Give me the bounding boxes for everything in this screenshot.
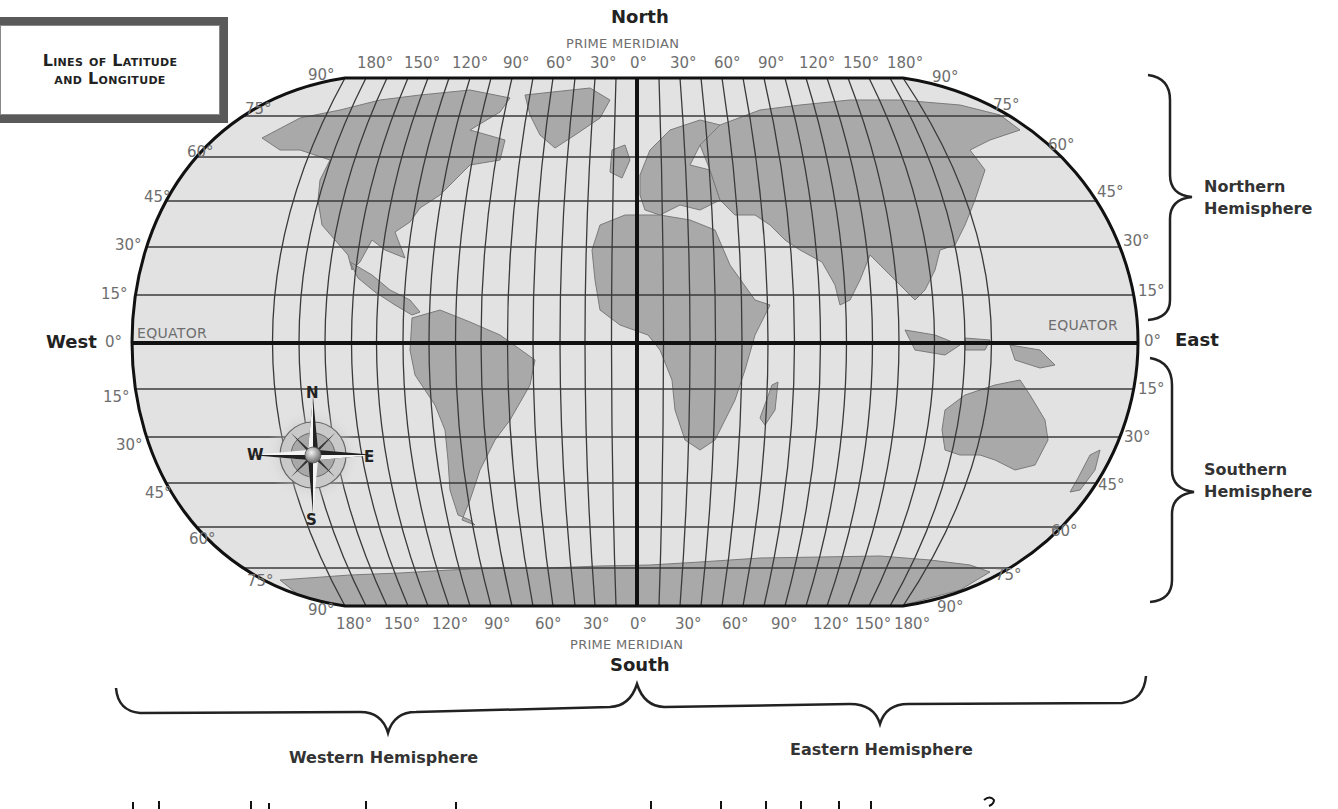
lat-left-label-equator: 0° <box>105 333 122 351</box>
lon-bottom-label: 30° <box>675 615 702 633</box>
lat-right-label: 15° <box>1138 282 1165 300</box>
lon-top-label: 30° <box>590 54 617 72</box>
northern-hemisphere-label: Northern Hemisphere <box>1204 176 1312 219</box>
south-label: South <box>610 654 670 675</box>
lon-bottom-label: 180° <box>336 615 372 633</box>
lat-left-label: 75° <box>247 572 274 590</box>
lon-bottom-label: 150° <box>855 615 891 633</box>
western-hemisphere-label: Western Hemisphere <box>289 747 478 769</box>
lon-top-label: 60° <box>714 54 741 72</box>
lon-top-label: 150° <box>404 54 440 72</box>
compass-w-label: W <box>247 446 264 464</box>
lon-bottom-label: 180° <box>894 615 930 633</box>
southern-hemisphere-label: Southern Hemisphere <box>1204 459 1312 502</box>
lon-bottom-label: 60° <box>722 615 749 633</box>
north-label: North <box>611 6 669 27</box>
lat-left-label: 15° <box>103 388 130 406</box>
prime-meridian-top-label: PRIME MERIDIAN <box>566 36 679 51</box>
lon-bottom-label: 60° <box>535 615 562 633</box>
lon-bottom-label: 150° <box>384 615 420 633</box>
lat-left-label: 45° <box>144 188 171 206</box>
lat-left-label: 45° <box>145 484 172 502</box>
lat-left-label: 90° <box>308 66 335 84</box>
lat-left-label: 30° <box>116 436 143 454</box>
lat-left-label: 75° <box>245 100 272 118</box>
lat-right-label: 60° <box>1048 136 1075 154</box>
lon-top-label: 180° <box>887 54 923 72</box>
eastern-hemisphere-label: Eastern Hemisphere <box>790 739 973 761</box>
lat-right-label: 90° <box>937 598 964 616</box>
lon-top-label: 120° <box>799 54 835 72</box>
compass-s-label: S <box>306 511 317 529</box>
hemisphere-bottom-brace <box>116 676 1146 733</box>
lat-right-label: 75° <box>995 566 1022 584</box>
lon-bottom-label: 90° <box>771 615 798 633</box>
southern-hemisphere-line-1: Southern <box>1204 459 1312 481</box>
lat-right-label: 30° <box>1123 232 1150 250</box>
lat-left-label: 30° <box>115 236 142 254</box>
equator-left-label: EQUATOR <box>137 325 207 341</box>
east-label: East <box>1175 329 1219 350</box>
cropped-question-text <box>110 795 1010 809</box>
compass-e-label: E <box>364 448 374 466</box>
lon-bottom-label: 120° <box>432 615 468 633</box>
lon-bottom-label: 120° <box>813 615 849 633</box>
lon-top-label: 120° <box>452 54 488 72</box>
lon-bottom-label: 90° <box>484 615 511 633</box>
lat-right-label-equator: 0° <box>1144 332 1161 350</box>
northern-hemisphere-line-2: Hemisphere <box>1204 198 1312 220</box>
lon-top-label: 90° <box>503 54 530 72</box>
compass-n-label: N <box>306 384 319 402</box>
lat-left-label: 60° <box>187 143 214 161</box>
lat-right-label: 60° <box>1051 522 1078 540</box>
cropped-text-fragments <box>110 795 1010 809</box>
lon-top-label: 60° <box>546 54 573 72</box>
lon-top-label: 180° <box>357 54 393 72</box>
lon-top-label: 150° <box>843 54 879 72</box>
southern-hemisphere-line-2: Hemisphere <box>1204 481 1312 503</box>
lat-right-label: 45° <box>1097 183 1124 201</box>
lat-right-label: 15° <box>1138 380 1165 398</box>
lat-right-label: 30° <box>1124 428 1151 446</box>
northern-hemisphere-line-1: Northern <box>1204 176 1312 198</box>
west-label: West <box>46 331 97 352</box>
lat-left-label: 60° <box>189 530 216 548</box>
lon-bottom-label: 30° <box>583 615 610 633</box>
lat-right-label: 45° <box>1098 476 1125 494</box>
lat-left-label: 15° <box>101 285 128 303</box>
lon-top-label: 30° <box>670 54 697 72</box>
lat-left-label: 90° <box>308 601 335 619</box>
lat-right-label: 75° <box>993 96 1020 114</box>
lon-top-label: 0° <box>630 54 647 72</box>
lon-top-label: 90° <box>758 54 785 72</box>
lat-right-label: 90° <box>932 68 959 86</box>
prime-meridian-bottom-label: PRIME MERIDIAN <box>570 637 683 652</box>
lon-bottom-label: 0° <box>630 615 647 633</box>
equator-right-label: EQUATOR <box>1048 317 1118 333</box>
